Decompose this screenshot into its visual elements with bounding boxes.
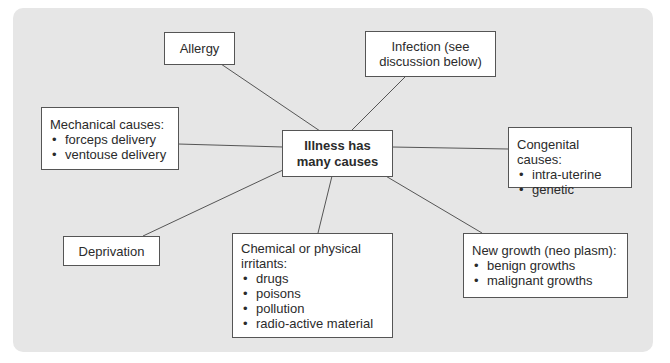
edge-center-chemical: [318, 176, 332, 233]
node-new-growth-title: New growth (neo plasm):: [472, 243, 619, 258]
edge-center-infection: [351, 76, 406, 131]
node-chemical-list: drugs poisons pollution radio-active mat…: [241, 271, 384, 331]
node-congenital-title: Congenital causes:: [517, 137, 623, 167]
node-deprivation: Deprivation: [63, 236, 160, 266]
list-item: malignant growths: [472, 273, 619, 288]
node-congenital-list: intra-uterine genetic: [517, 167, 623, 197]
node-deprivation-label: Deprivation: [79, 244, 145, 259]
list-item: radio-active material: [241, 316, 384, 331]
list-item: benign growths: [472, 258, 619, 273]
node-infection-line2: discussion below): [379, 54, 482, 69]
node-mechanical: Mechanical causes: forceps delivery vent…: [41, 107, 179, 170]
edge-center-allergy: [221, 64, 320, 131]
node-allergy-label: Allergy: [180, 41, 220, 56]
node-infection: Infection (see discussion below): [365, 31, 496, 77]
node-congenital: Congenital causes: intra-uterine genetic: [508, 127, 632, 188]
list-item: drugs: [241, 271, 384, 286]
node-center-line2: many causes: [297, 154, 379, 170]
node-mechanical-list: forceps delivery ventouse delivery: [50, 132, 170, 162]
list-item: forceps delivery: [50, 132, 170, 147]
node-center-line1: Illness has: [304, 138, 370, 154]
node-new-growth: New growth (neo plasm): benign growths m…: [463, 233, 628, 298]
list-item: pollution: [241, 301, 384, 316]
edge-center-deprivation: [143, 170, 283, 236]
node-infection-line1: Infection (see: [391, 39, 469, 54]
list-item: intra-uterine: [517, 167, 623, 182]
edge-center-congenital: [392, 147, 508, 149]
node-center-illness: Illness has many causes: [282, 130, 393, 177]
node-new-growth-list: benign growths malignant growths: [472, 258, 619, 288]
edge-center-mechanical: [178, 144, 283, 147]
node-allergy: Allergy: [164, 32, 235, 65]
node-chemical-title: Chemical or physical irritants:: [241, 241, 371, 271]
edge-center-new-growth: [384, 175, 482, 233]
list-item: ventouse delivery: [50, 147, 170, 162]
node-chemical: Chemical or physical irritants: drugs po…: [232, 233, 393, 338]
list-item: poisons: [241, 286, 384, 301]
node-mechanical-title: Mechanical causes:: [50, 117, 170, 132]
list-item: genetic: [517, 182, 623, 197]
